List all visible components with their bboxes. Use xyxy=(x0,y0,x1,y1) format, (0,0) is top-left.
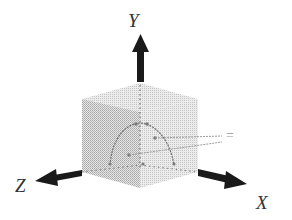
x-axis-arrow xyxy=(198,169,247,189)
cube-right-face xyxy=(140,99,198,188)
diagram-svg xyxy=(0,0,292,220)
y-axis-label: Y xyxy=(128,11,139,30)
diagram-canvas: Y Z X = xyxy=(0,0,292,220)
z-axis-arrow xyxy=(35,169,82,186)
point-top-right xyxy=(145,122,149,126)
point-base-left xyxy=(108,162,111,165)
x-axis-label: X xyxy=(256,193,268,212)
y-axis-arrow xyxy=(132,34,149,82)
annotation-label: = xyxy=(226,129,234,143)
z-axis-label: Z xyxy=(15,176,26,195)
point-base-center xyxy=(141,162,144,165)
point-top-left xyxy=(134,122,138,126)
point-base-right xyxy=(172,162,175,165)
cube-left-face xyxy=(82,99,140,188)
